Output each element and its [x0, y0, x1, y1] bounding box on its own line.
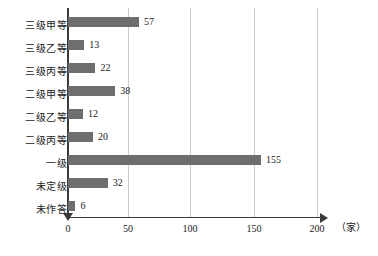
category-label-5: 二级丙等	[25, 136, 67, 146]
x-tick-label-0: 0	[48, 223, 88, 234]
bar-2[interactable]	[68, 63, 95, 73]
category-label-6: 一级	[46, 159, 67, 169]
gridline-150	[254, 8, 255, 218]
bar-8[interactable]	[68, 201, 75, 211]
category-label-2: 三级丙等	[25, 67, 67, 77]
x-tick-label-2: 100	[170, 223, 210, 234]
category-label-8: 未作答	[36, 205, 68, 215]
category-label-7: 未定级	[36, 182, 68, 192]
category-label-1: 三级乙等	[25, 44, 67, 54]
bar-5[interactable]	[68, 132, 93, 142]
bar-value-3: 38	[120, 86, 130, 96]
plot-area: 三级甲等 三级乙等 三级丙等 二级甲等 二级乙等 二级丙等 一级 未定级 未作答…	[0, 0, 378, 256]
bar-value-1: 13	[89, 40, 99, 50]
category-label-4: 二级乙等	[25, 113, 67, 123]
gridline-100	[190, 8, 191, 218]
gridline-200	[317, 8, 318, 218]
x-tick-label-3: 150	[234, 223, 274, 234]
bar-value-6: 155	[266, 155, 281, 165]
bar-4[interactable]	[68, 109, 83, 119]
bar-value-0: 57	[144, 17, 154, 27]
gridline-50	[128, 8, 129, 218]
x-tick-label-1: 50	[108, 223, 148, 234]
bar-0[interactable]	[68, 17, 139, 27]
bar-value-4: 12	[88, 109, 98, 119]
bar-3[interactable]	[68, 86, 115, 96]
bar-6[interactable]	[68, 155, 261, 165]
bar-7[interactable]	[68, 178, 108, 188]
x-tick-label-4: 200	[297, 223, 337, 234]
bar-value-5: 20	[98, 132, 108, 142]
x-axis-arrow-icon	[320, 213, 328, 223]
bar-1[interactable]	[68, 40, 84, 50]
category-label-3: 二级甲等	[25, 90, 67, 100]
category-label-0: 三级甲等	[25, 21, 67, 31]
bar-value-7: 32	[113, 178, 123, 188]
bar-value-8: 6	[80, 201, 85, 211]
bar-value-2: 22	[100, 63, 110, 73]
x-axis-unit-label: （家）	[336, 222, 366, 234]
x-axis	[68, 217, 321, 218]
bar-chart: 三级甲等 三级乙等 三级丙等 二级甲等 二级乙等 二级丙等 一级 未定级 未作答…	[0, 0, 378, 256]
